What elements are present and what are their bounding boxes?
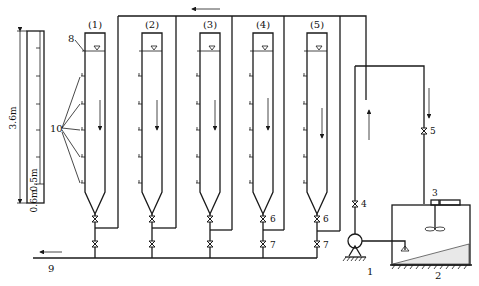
label-8: 8	[68, 33, 74, 44]
scale-spacing-label: 0.5m	[29, 168, 39, 191]
column-label-1: (1)	[88, 19, 102, 30]
apparatus-diagram: 3.6m 0.5m 0.6m (1) (2	[0, 0, 479, 286]
label-7b: 7	[323, 240, 329, 250]
label-3: 3	[432, 188, 438, 198]
label-10: 10	[50, 123, 63, 134]
column-label-2: (2)	[145, 19, 159, 30]
column-2	[142, 16, 176, 258]
label-6a: 6	[270, 214, 276, 224]
scale-total-label: 3.6m	[8, 106, 18, 129]
label-5: 5	[430, 126, 436, 136]
water-level-markers	[82, 46, 327, 51]
column-4	[253, 16, 284, 258]
column-3	[200, 16, 232, 258]
label-9: 9	[48, 263, 54, 274]
column-label-3: (3)	[203, 19, 217, 30]
scale-offset-label: 0.6m	[29, 189, 39, 212]
label-2: 2	[435, 270, 441, 281]
label-7a: 7	[270, 240, 276, 250]
column-label-4: (4)	[256, 19, 270, 30]
pump	[343, 234, 409, 261]
label-6b: 6	[323, 214, 329, 224]
label-1: 1	[367, 266, 373, 277]
column-label-5: (5)	[310, 19, 324, 30]
label-4: 4	[361, 199, 367, 209]
scale-bar: 3.6m 0.5m 0.6m	[8, 31, 44, 212]
tank	[390, 205, 472, 269]
column-1	[85, 16, 118, 258]
